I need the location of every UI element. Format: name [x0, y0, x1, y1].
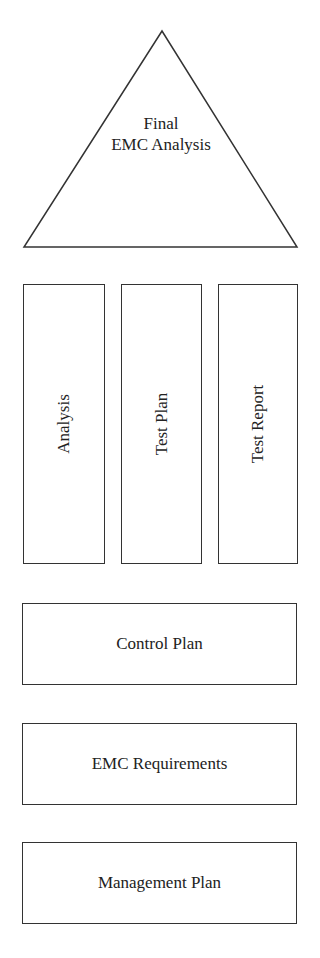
pillar-test-report: Test Report [218, 284, 298, 564]
box-management-plan: Management Plan [22, 842, 297, 924]
pillar-analysis: Analysis [23, 284, 105, 564]
roof-label-line2: EMC Analysis [80, 134, 242, 155]
box-label: EMC Requirements [92, 754, 228, 774]
roof-label-line1: Final [80, 113, 242, 134]
box-label: Management Plan [98, 873, 221, 893]
roof-label: Final EMC Analysis [80, 113, 242, 155]
box-label: Control Plan [116, 634, 202, 654]
pillar-test-plan: Test Plan [121, 284, 202, 564]
box-control-plan: Control Plan [22, 603, 297, 685]
box-emc-requirements: EMC Requirements [22, 723, 297, 805]
pillar-label: Test Plan [152, 393, 172, 456]
pillar-label: Analysis [54, 394, 74, 454]
pillar-label: Test Report [248, 385, 268, 464]
